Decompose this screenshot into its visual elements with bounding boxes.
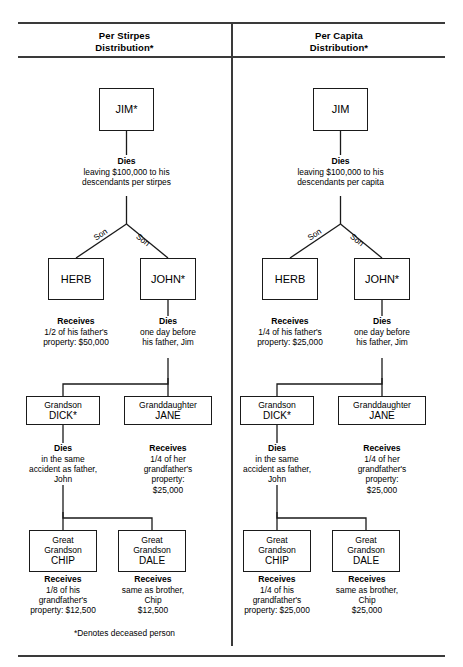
- node-dale-role-line1: Great: [355, 535, 377, 545]
- note-herb-body: 1/4 of his father's property: $25,000: [234, 327, 346, 347]
- node-chip-name: CHIP: [51, 555, 75, 567]
- node-herb-name: HERB: [61, 273, 92, 286]
- note-jim-per-stirpes: Dies leaving $100,000 to his descendants…: [36, 156, 217, 187]
- note-jim-body: leaving $100,000 to his descendants per …: [250, 167, 431, 187]
- node-dale-per-capita[interactable]: Great Grandson DALE: [332, 530, 400, 572]
- node-dale-per-stirpes[interactable]: Great Grandson DALE: [118, 530, 186, 572]
- node-chip-name: CHIP: [265, 555, 289, 567]
- note-john-head: Dies: [332, 316, 432, 327]
- node-dale-role-line2: Grandson: [347, 545, 385, 555]
- node-herb-per-stirpes[interactable]: HERB: [48, 258, 104, 300]
- node-chip-role-line2: Grandson: [258, 545, 296, 555]
- note-chip-per-stirpes: Receives 1/8 of his grandfather's proper…: [16, 574, 110, 616]
- page-bottom-rule: [18, 655, 445, 657]
- note-chip-head: Receives: [16, 574, 110, 585]
- node-herb-per-capita[interactable]: HERB: [262, 258, 318, 300]
- note-dale-body: same as brother, Chip $25,000: [324, 585, 410, 616]
- note-jane-per-stirpes: Receives 1/4 of her grandfather's proper…: [124, 443, 212, 495]
- note-dick-per-capita: Dies in the same accident as father, Joh…: [228, 443, 326, 485]
- note-herb-head: Receives: [234, 316, 346, 327]
- footnote-deceased: *Denotes deceased person: [18, 628, 231, 638]
- note-chip-body: 1/8 of his grandfather's property: $12,5…: [16, 585, 110, 616]
- node-dale-role-line2: Grandson: [133, 545, 171, 555]
- per-capita-header-line2: Distribution*: [233, 42, 445, 54]
- note-dick-body: in the same accident as father, John: [14, 454, 112, 485]
- node-jane-per-stirpes[interactable]: Granddaughter JANE: [124, 396, 212, 425]
- note-chip-body: 1/4 of his grandfather's property: $25,0…: [230, 585, 324, 616]
- node-dick-role: Grandson: [258, 400, 296, 410]
- column-header-per-stirpes: Per Stirpes Distribution*: [18, 30, 231, 54]
- node-jane-role: Granddaughter: [353, 400, 411, 410]
- note-dale-head: Receives: [110, 574, 196, 585]
- note-john-body: one day before his father, Jim: [118, 327, 218, 347]
- note-chip-head: Receives: [230, 574, 324, 585]
- node-chip-per-stirpes[interactable]: Great Grandson CHIP: [29, 530, 97, 572]
- note-jim-head: Dies: [36, 156, 217, 167]
- node-chip-role-line2: Grandson: [44, 545, 82, 555]
- node-jane-name: JANE: [369, 410, 395, 422]
- edge-label-john-son-per-stirpes: Son: [134, 232, 151, 248]
- node-jane-role: Granddaughter: [139, 400, 197, 410]
- note-dale-per-capita: Receives same as brother, Chip $25,000: [324, 574, 410, 616]
- node-dick-name: DICK*: [263, 410, 291, 422]
- per-capita-header-line1: Per Capita: [233, 30, 445, 42]
- note-chip-per-capita: Receives 1/4 of his grandfather's proper…: [230, 574, 324, 616]
- edge-label-text: Son: [306, 227, 323, 243]
- node-chip-per-capita[interactable]: Great Grandson CHIP: [243, 530, 311, 572]
- node-herb-name: HERB: [275, 273, 306, 286]
- node-john-per-stirpes[interactable]: JOHN*: [140, 258, 196, 300]
- node-jim-name: JIM*: [116, 103, 138, 116]
- note-john-body: one day before his father, Jim: [332, 327, 432, 347]
- column-header-per-capita: Per Capita Distribution*: [233, 30, 445, 54]
- note-jane-body: 1/4 of her grandfather's property: $25,0…: [338, 454, 426, 495]
- node-dick-role: Grandson: [44, 400, 82, 410]
- note-dick-body: in the same accident as father, John: [228, 454, 326, 485]
- node-jim-name: JIM: [332, 103, 350, 116]
- note-jim-per-capita: Dies leaving $100,000 to his descendants…: [250, 156, 431, 187]
- note-jane-per-capita: Receives 1/4 of her grandfather's proper…: [338, 443, 426, 495]
- node-john-name: JOHN*: [151, 273, 185, 286]
- per-stirpes-header-line1: Per Stirpes: [18, 30, 231, 42]
- note-herb-head: Receives: [20, 316, 132, 327]
- note-herb-per-stirpes: Receives 1/2 of his father's property: $…: [20, 316, 132, 347]
- note-dick-head: Dies: [14, 443, 112, 454]
- node-chip-role-line1: Great: [52, 535, 74, 545]
- diagram-page: Per Stirpes Distribution* Per Capita Dis…: [0, 0, 463, 667]
- note-john-per-capita: Dies one day before his father, Jim: [332, 316, 432, 347]
- note-jane-body: 1/4 of her grandfather's property: $25,0…: [124, 454, 212, 495]
- note-jim-head: Dies: [250, 156, 431, 167]
- edge-label-text: Son: [92, 227, 109, 243]
- note-jane-head: Receives: [124, 443, 212, 454]
- edge-label-text: Son: [134, 232, 151, 248]
- edge-label-herb-son-per-stirpes: Son: [92, 227, 109, 243]
- node-dick-per-stirpes[interactable]: Grandson DICK*: [26, 396, 100, 425]
- note-john-per-stirpes: Dies one day before his father, Jim: [118, 316, 218, 347]
- node-john-per-capita[interactable]: JOHN*: [354, 258, 410, 300]
- note-jim-body: leaving $100,000 to his descendants per …: [36, 167, 217, 187]
- node-dale-name: DALE: [353, 555, 379, 567]
- note-john-head: Dies: [118, 316, 218, 327]
- node-jane-per-capita[interactable]: Granddaughter JANE: [338, 396, 426, 425]
- node-jim-per-stirpes[interactable]: JIM*: [99, 88, 154, 131]
- column-divider: [231, 22, 233, 646]
- note-dale-per-stirpes: Receives same as brother, Chip $12,500: [110, 574, 196, 616]
- note-dick-per-stirpes: Dies in the same accident as father, Joh…: [14, 443, 112, 485]
- edge-label-text: Son: [348, 232, 365, 248]
- node-dale-role-line1: Great: [141, 535, 163, 545]
- node-dale-name: DALE: [139, 555, 165, 567]
- node-jim-per-capita[interactable]: JIM: [313, 88, 368, 131]
- edge-label-john-son-per-capita: Son: [348, 232, 365, 248]
- note-herb-per-capita: Receives 1/4 of his father's property: $…: [234, 316, 346, 347]
- note-herb-body: 1/2 of his father's property: $50,000: [20, 327, 132, 347]
- node-dick-per-capita[interactable]: Grandson DICK*: [240, 396, 314, 425]
- edge-label-herb-son-per-capita: Son: [306, 227, 323, 243]
- note-dale-body: same as brother, Chip $12,500: [110, 585, 196, 616]
- per-stirpes-header-line2: Distribution*: [18, 42, 231, 54]
- node-dick-name: DICK*: [49, 410, 77, 422]
- note-dick-head: Dies: [228, 443, 326, 454]
- node-jane-name: JANE: [155, 410, 181, 422]
- note-jane-head: Receives: [338, 443, 426, 454]
- node-chip-role-line1: Great: [266, 535, 288, 545]
- note-dale-head: Receives: [324, 574, 410, 585]
- footnote-text: *Denotes deceased person: [74, 628, 175, 638]
